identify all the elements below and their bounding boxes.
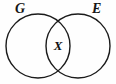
set-label-e: E	[92, 2, 101, 16]
set-label-g: G	[15, 2, 25, 16]
intersection-label-x: X	[52, 39, 64, 52]
venn-diagram-figure: G E X	[0, 0, 116, 84]
